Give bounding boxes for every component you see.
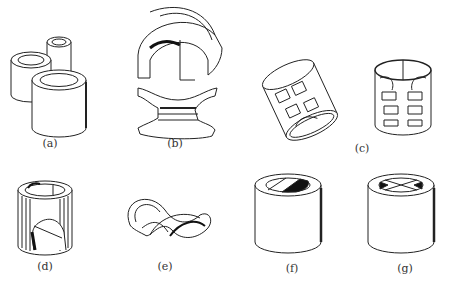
label-b: (b) [167, 137, 183, 150]
pall-rings-drawing [259, 54, 431, 147]
raschig-rings-drawing [11, 37, 86, 137]
label-f: (f) [286, 262, 299, 275]
label-a: (a) [42, 137, 57, 150]
label-d: (d) [37, 260, 53, 273]
spiral-ring-drawing [128, 199, 211, 237]
label-g: (g) [397, 262, 413, 275]
packing-figure: (a) (b) (c) (d) (e) (f) (g) [0, 0, 451, 281]
label-c: (c) [355, 142, 370, 155]
berl-saddles-drawing [138, 7, 222, 138]
slotted-ring-drawing [18, 181, 72, 255]
partition-ring-drawing [255, 174, 321, 253]
label-e: (e) [157, 260, 172, 273]
cross-partition-ring-drawing [368, 174, 434, 253]
